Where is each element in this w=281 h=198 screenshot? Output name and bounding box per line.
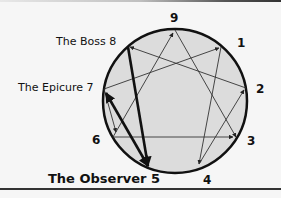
point-1-label: 1 — [237, 36, 245, 50]
enneagram-diagram: 9 1 2 3 4 6 The Boss 8 The Epicure 7 The… — [0, 0, 281, 198]
enneagram-circle — [103, 29, 247, 173]
point-8-label: The Boss 8 — [55, 35, 116, 48]
point-9-label: 9 — [170, 11, 178, 25]
point-2-label: 2 — [256, 82, 264, 96]
point-3-label: 3 — [247, 134, 255, 148]
bottom-border — [0, 188, 281, 190]
point-5-label: The Observer 5 — [48, 171, 160, 186]
point-6-label: 6 — [92, 133, 100, 147]
point-7-label: The Epicure 7 — [17, 81, 94, 94]
point-4-label: 4 — [203, 173, 211, 187]
